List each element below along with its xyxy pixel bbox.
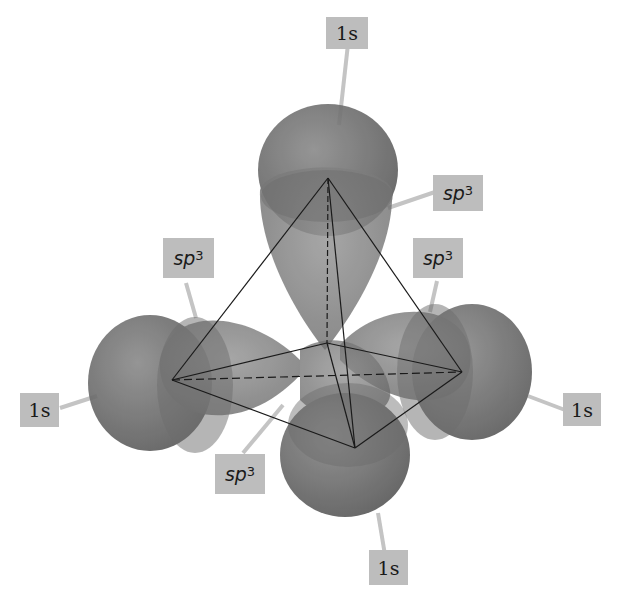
label-superscript: 3 — [247, 464, 255, 479]
label-right-1s: 1s — [563, 393, 601, 426]
label-text: 1s — [378, 557, 400, 579]
label-text: 1s — [571, 399, 593, 421]
orbital-diagram — [0, 0, 618, 610]
label-front-sp3: sp3 — [215, 454, 265, 494]
label-text: 1s — [336, 22, 358, 44]
label-right-sp3: sp3 — [413, 238, 463, 278]
label-top-sp3: sp3 — [433, 175, 483, 211]
label-bottom-1s: 1s — [369, 550, 408, 585]
label-text: sp — [443, 182, 465, 204]
label-superscript: 3 — [465, 183, 473, 198]
label-text: sp — [225, 463, 247, 485]
left-orbitals — [88, 315, 300, 453]
label-text: 1s — [29, 399, 51, 421]
label-top-1s: 1s — [326, 17, 368, 49]
label-text: sp — [423, 247, 445, 269]
label-superscript: 3 — [445, 248, 453, 263]
label-left-1s: 1s — [20, 393, 59, 427]
label-left-sp3: sp3 — [163, 238, 214, 278]
label-superscript: 3 — [195, 248, 203, 263]
label-text: sp — [173, 247, 195, 269]
